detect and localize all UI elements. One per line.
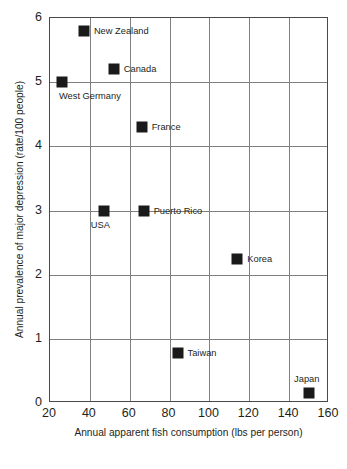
data-point-label: Taiwan [188, 349, 217, 358]
y-tick-label: 1 [35, 331, 42, 345]
y-tick-label: 0 [35, 395, 42, 409]
y-tick-label: 6 [35, 10, 42, 24]
data-point-marker [172, 347, 183, 358]
y-tick-label: 5 [35, 74, 42, 88]
x-tick-label: 60 [122, 406, 136, 420]
gridline-horizontal [50, 146, 327, 147]
gridline-horizontal [50, 339, 327, 340]
data-point-label: France [152, 123, 181, 132]
data-point-marker [78, 25, 89, 36]
data-point-label: USA [91, 221, 110, 230]
data-point-marker [98, 205, 109, 216]
x-tick-label: 80 [162, 406, 176, 420]
gridline-vertical [90, 18, 91, 401]
data-point-label: Japan [294, 375, 319, 384]
data-point-marker [232, 253, 243, 264]
x-tick-label: 20 [42, 406, 56, 420]
data-point-label: Puerto Rico [154, 207, 203, 216]
gridline-horizontal [50, 82, 327, 83]
x-tick-label: 100 [198, 406, 219, 420]
x-axis-title: Annual apparent fish consumption (lbs pe… [49, 427, 328, 438]
data-point-marker [108, 64, 119, 75]
gridline-vertical [209, 18, 210, 401]
x-tick-label: 40 [82, 406, 96, 420]
x-tick-label: 120 [238, 406, 259, 420]
data-point-label: New Zealand [94, 27, 149, 36]
scatter-chart-figure: New ZealandCanadaWest GermanyFranceUSAPu… [0, 0, 347, 469]
data-point-marker [136, 122, 147, 133]
gridline-vertical [130, 18, 131, 401]
y-tick-label: 3 [35, 203, 42, 217]
x-tick-label: 140 [278, 406, 299, 420]
data-point-label: West Germany [59, 92, 121, 101]
y-axis-title: Annual prevalence of major depression (r… [14, 17, 28, 402]
gridline-vertical [249, 18, 250, 401]
y-tick-label: 4 [35, 138, 42, 152]
data-point-marker [138, 205, 149, 216]
data-point-marker [56, 77, 67, 88]
gridline-horizontal [50, 275, 327, 276]
gridline-vertical [289, 18, 290, 401]
data-point-label: Canada [124, 65, 157, 74]
plot-area: New ZealandCanadaWest GermanyFranceUSAPu… [49, 17, 328, 402]
y-tick-label: 2 [35, 267, 42, 281]
data-point-marker [304, 388, 315, 399]
data-point-label: Korea [247, 255, 272, 264]
x-tick-label: 160 [318, 406, 339, 420]
